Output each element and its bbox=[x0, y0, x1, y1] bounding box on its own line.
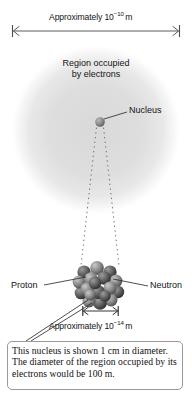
nucleus-diameter-prefix: Approximately 10 bbox=[49, 321, 114, 331]
atom-diameter-prefix: Approximately 10 bbox=[49, 12, 114, 22]
nucleus-diameter-label: Approximately 10−14m bbox=[49, 320, 132, 331]
figure-canvas: Approximately 10−10m Region occupied by … bbox=[0, 0, 192, 401]
atom-diameter-exponent: −10 bbox=[114, 10, 124, 17]
caption-text: This nucleus is shown 1 cm in diameter. … bbox=[12, 345, 178, 379]
nucleus-diameter-unit: m bbox=[125, 321, 132, 331]
neutron-callout-label: Neutron bbox=[150, 280, 182, 290]
region-label-line1: Region occupied bbox=[40, 58, 152, 69]
nucleus-callout-label: Nucleus bbox=[129, 105, 162, 115]
atom-diameter-label: Approximately 10−10m bbox=[49, 11, 132, 22]
nucleon-cluster bbox=[73, 261, 125, 310]
region-label-line2: by electrons bbox=[40, 69, 152, 80]
atom-diameter-unit: m bbox=[125, 12, 132, 22]
region-occupied-label: Region occupied by electrons bbox=[40, 58, 152, 80]
atom-diameter-arrow bbox=[13, 26, 180, 37]
proton-callout-label: Proton bbox=[11, 280, 38, 290]
nucleus-diameter-exponent: −14 bbox=[114, 319, 124, 326]
